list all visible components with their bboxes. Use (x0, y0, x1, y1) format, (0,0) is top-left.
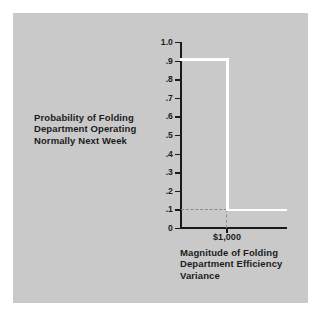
y-axis-tick (175, 79, 180, 80)
y-axis-tick (175, 135, 180, 136)
y-axis-tick-label: 0 (143, 223, 173, 233)
y-axis-tick-label: .4 (143, 149, 173, 159)
y-axis-tick-label: .3 (143, 167, 173, 177)
y-axis-tick (175, 172, 180, 173)
x-axis-caption-line-1: Magnitude of Folding (180, 247, 310, 258)
y-axis-tick-label: .6 (143, 111, 173, 121)
y-axis-tick (175, 42, 180, 43)
y-axis-tick-label: .8 (143, 74, 173, 84)
y-axis-tick (175, 154, 180, 155)
step-segment-upper (180, 58, 229, 61)
y-axis-tick (175, 209, 180, 210)
x-axis-caption-line-3: Variance (180, 270, 310, 281)
y-axis-tick-label: .5 (143, 130, 173, 140)
y-axis-line (180, 42, 182, 229)
y-axis-tick (175, 116, 180, 117)
y-axis-tick-label-wrap: .6 (143, 111, 173, 121)
y-axis-tick-label-wrap: .9 (143, 56, 173, 66)
y-axis-tick-label-wrap: 1.0 (143, 37, 173, 47)
x-axis-caption-line-2: Department Efficiency (180, 258, 310, 269)
y-axis-tick-label: .9 (143, 56, 173, 66)
y-axis-tick-label-wrap: .8 (143, 74, 173, 84)
y-axis-tick-label: 1.0 (143, 37, 173, 47)
y-axis-tick-label-wrap: .7 (143, 93, 173, 103)
step-segment-lower (226, 209, 287, 212)
reference-line-vertical (226, 209, 227, 228)
figure-container: Probability of Folding Department Operat… (0, 0, 321, 317)
y-axis-tick-label-wrap: .3 (143, 167, 173, 177)
reference-line-horizontal (181, 209, 227, 210)
y-axis-tick-label: .1 (143, 204, 173, 214)
x-axis-tick-label: $1,000 (197, 232, 257, 242)
x-axis-line (180, 227, 287, 229)
step-segment-drop (226, 58, 229, 211)
y-axis-tick-label-wrap: .1 (143, 204, 173, 214)
y-axis-tick-label: .2 (143, 186, 173, 196)
y-axis-tick-label-wrap: .2 (143, 186, 173, 196)
y-axis-tick-label-wrap: .5 (143, 130, 173, 140)
y-axis-tick-label-wrap: 0 (143, 223, 173, 233)
y-axis-tick (175, 191, 180, 192)
y-axis-tick-label: .7 (143, 93, 173, 103)
y-axis-tick-label-wrap: .4 (143, 149, 173, 159)
x-axis-caption: Magnitude of Folding Department Efficien… (180, 247, 310, 281)
y-axis-tick (175, 98, 180, 99)
y-axis-tick (175, 228, 180, 229)
